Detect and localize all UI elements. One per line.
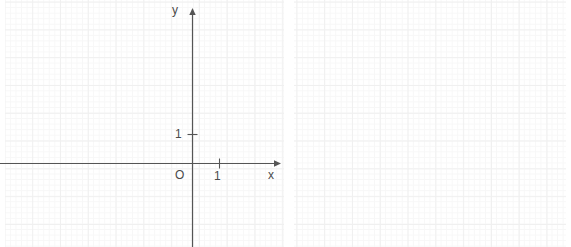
origin-label: O — [175, 169, 184, 181]
axes-layer — [0, 0, 571, 247]
y-axis-tick-label-1: 1 — [175, 128, 182, 140]
x-axis-label: x — [268, 169, 274, 181]
x-axis-tick-label-1: 1 — [214, 170, 221, 182]
y-axis-label: y — [172, 4, 178, 16]
x-axis-arrowhead — [274, 160, 281, 166]
y-axis-arrowhead — [189, 8, 195, 15]
figure-canvas: y x O 1 1 — [0, 0, 571, 247]
